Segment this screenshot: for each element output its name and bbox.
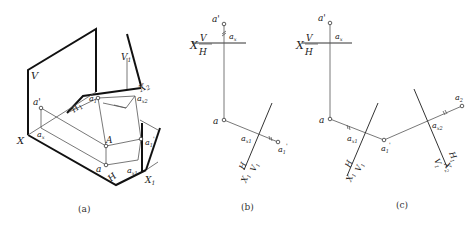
label-ax2: ax2 bbox=[137, 94, 148, 104]
label-a2: a2 bbox=[455, 93, 463, 103]
point-a1-prime bbox=[382, 138, 386, 142]
label-v: V bbox=[31, 70, 40, 81]
point-a1-prime bbox=[276, 140, 280, 144]
label-a: a bbox=[319, 115, 324, 125]
tick-mark bbox=[269, 136, 270, 140]
x1-axis bbox=[244, 103, 272, 170]
label-x: X bbox=[16, 135, 25, 146]
label-ax: ax bbox=[335, 32, 343, 42]
proj-line bbox=[103, 103, 126, 108]
label-x2: X2 bbox=[136, 80, 151, 95]
caption-c: (c) bbox=[396, 200, 408, 210]
label-x: X bbox=[189, 39, 199, 52]
label-ax1: ax1 bbox=[347, 134, 358, 144]
point-a2 bbox=[460, 104, 464, 108]
point-a-prime bbox=[328, 21, 332, 25]
label-a1: a1 bbox=[89, 94, 97, 104]
label-v: V bbox=[306, 33, 314, 43]
label-ax1: ax1 bbox=[127, 166, 138, 176]
panel-c: a' ax X V H a ax1 a1' ax2 a2 H V1 X1 H1 … bbox=[295, 13, 464, 210]
v-plane-outline bbox=[28, 29, 96, 135]
label-ax1: ax1 bbox=[241, 134, 252, 144]
point-a bbox=[222, 118, 226, 122]
label-a1-prime: a1' bbox=[381, 141, 391, 154]
label-h: H bbox=[198, 47, 207, 57]
panel-a: V V1 X2 X X1 H H1 a' ax a1 ax2 A a1' a a… bbox=[16, 29, 160, 214]
label-ax2: ax2 bbox=[432, 121, 443, 131]
label-v1-axis2: V1 bbox=[431, 157, 444, 169]
label-v1-axis: V1 bbox=[249, 161, 262, 173]
label-v1-axis1: V1 bbox=[354, 161, 367, 173]
label-a-prime: a' bbox=[212, 14, 220, 24]
proj-line bbox=[106, 160, 138, 165]
proj-line bbox=[138, 139, 141, 160]
point-a bbox=[104, 163, 108, 167]
caption-a: (a) bbox=[78, 204, 90, 214]
label-A: A bbox=[105, 135, 113, 145]
label-h: H bbox=[105, 171, 118, 184]
label-v1: V1 bbox=[121, 52, 131, 63]
label-ax: ax bbox=[37, 130, 45, 140]
label-x: X bbox=[295, 39, 305, 52]
point-a bbox=[328, 117, 332, 121]
proj-line bbox=[98, 96, 135, 98]
proj-line bbox=[98, 98, 106, 146]
label-h: H bbox=[304, 47, 313, 57]
tick-mark bbox=[271, 137, 272, 141]
caption-b: (b) bbox=[241, 202, 254, 212]
label-a-prime: a' bbox=[33, 97, 41, 107]
proj-line bbox=[126, 96, 135, 108]
label-x1-axis: X1 bbox=[344, 171, 357, 184]
projection-line-a-a1 bbox=[330, 119, 384, 140]
projection-diagram: V V1 X2 X X1 H H1 a' ax a1 ax2 A a1' a a… bbox=[0, 0, 473, 225]
label-x1: X1 bbox=[144, 175, 155, 186]
point-a-prime bbox=[222, 22, 226, 26]
label-a: a bbox=[213, 116, 218, 126]
proj-line bbox=[41, 128, 106, 165]
label-a-prime: a' bbox=[318, 13, 326, 23]
label-v: V bbox=[200, 33, 208, 43]
label-a1-prime: a1' bbox=[278, 142, 288, 155]
label-ax: ax bbox=[229, 32, 237, 42]
point-a1-prime bbox=[139, 137, 143, 141]
label-a: a bbox=[96, 164, 101, 174]
label-x1-axis: X1 bbox=[239, 172, 252, 185]
x-axis-base bbox=[28, 135, 146, 185]
